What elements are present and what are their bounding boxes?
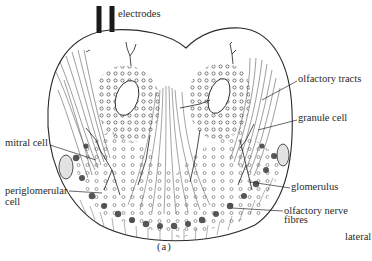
label-periglomerular-cell: cell (5, 197, 20, 207)
figure-caption: (a) (157, 242, 172, 252)
label-olfactory-nerve-fibres: fibres (284, 215, 308, 225)
electrodes-icon (97, 6, 115, 33)
label-granule-cell: granule cell (298, 113, 347, 123)
right-side-lobe (277, 144, 289, 166)
label-glomerulus: glomerulus (291, 182, 338, 192)
olfactory-bulb-diagram (0, 0, 372, 261)
label-olfactory-tracts: olfactory tracts (298, 74, 361, 84)
label-electrodes: electrodes (118, 9, 161, 19)
label-periglomerular: periglomerular (5, 186, 67, 196)
label-lateral: lateral (345, 232, 371, 242)
left-side-lobe (59, 155, 73, 179)
bulb-interior (55, 42, 285, 244)
label-mitral-cell: mitral cell (5, 138, 48, 148)
